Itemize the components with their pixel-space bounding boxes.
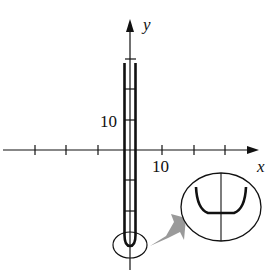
- magnified-inset: [181, 173, 261, 241]
- x-tick-label-10: 10: [152, 157, 169, 176]
- y-axis-label: y: [141, 15, 151, 34]
- x-axis-label: x: [256, 157, 265, 176]
- y-tick-label-10: 10: [100, 112, 117, 131]
- magnify-arrow-icon: [150, 214, 186, 246]
- graph-figure: 10 x 10 y: [0, 0, 269, 274]
- x-axis: 10 x: [3, 145, 265, 176]
- y-axis-arrow-icon: [126, 19, 134, 32]
- x-axis-arrow-icon: [247, 146, 259, 154]
